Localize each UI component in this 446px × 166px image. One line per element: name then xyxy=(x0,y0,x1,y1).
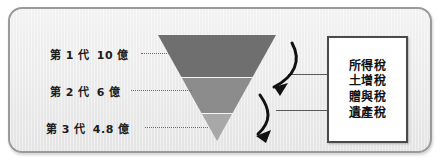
generation-1-amount: 10 億 xyxy=(97,49,129,62)
arrow-curve-top xyxy=(274,43,296,87)
generation-1-name: 第 1 代 xyxy=(50,49,90,62)
arrow-curve-bottom xyxy=(258,95,268,134)
tax-item-gift: 贈與稅 xyxy=(349,91,387,104)
tax-item-land-value-increment: 土增稅 xyxy=(349,75,387,88)
generation-label-3: 第 3 代4.8 億 xyxy=(46,120,130,136)
generation-label-1: 第 1 代10 億 xyxy=(50,46,129,62)
generation-2-name: 第 2 代 xyxy=(50,86,90,99)
tax-item-income: 所得稅 xyxy=(349,60,387,73)
tax-item-estate: 遺產稅 xyxy=(349,107,387,120)
generation-label-2: 第 2 代6 億 xyxy=(50,83,121,99)
diagram-frame: 第 1 代10 億 第 2 代6 億 第 3 代4.8 億 xyxy=(8,7,432,153)
diagram-root: 第 1 代10 億 第 2 代6 億 第 3 代4.8 億 xyxy=(0,0,446,166)
leader-line-generation-3 xyxy=(145,127,208,128)
generation-3-amount: 4.8 億 xyxy=(93,123,130,136)
tax-erosion-arrows xyxy=(246,39,336,149)
generation-3-name: 第 3 代 xyxy=(46,123,86,136)
leader-line-generation-2 xyxy=(131,90,192,91)
tax-types-box: 所得稅 土增稅 贈與稅 遺產稅 xyxy=(327,36,408,143)
leader-line-generation-1 xyxy=(141,53,177,54)
generation-2-amount: 6 億 xyxy=(97,86,121,99)
